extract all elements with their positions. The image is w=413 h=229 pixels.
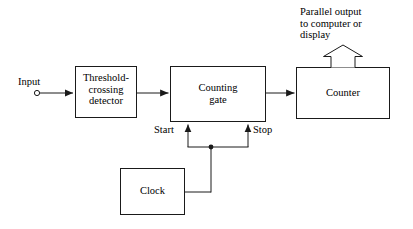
threshold-detector-label: Threshold- crossing detector: [76, 72, 136, 107]
parallel-output-arrow-icon: [324, 45, 363, 68]
counter-label: Counter: [297, 87, 389, 99]
clock-label: Clock: [121, 185, 184, 197]
stop-label: Stop: [253, 124, 285, 136]
counting-gate-label: Counting gate: [171, 82, 265, 105]
start-label: Start: [154, 124, 186, 136]
input-label: Input: [18, 76, 58, 88]
bus-junction-dot: [209, 145, 214, 150]
diagram-canvas: Threshold- crossing detector Counting ga…: [0, 0, 413, 229]
input-terminal-icon: [34, 90, 39, 95]
parallel-output-label: Parallel output to computer or display: [300, 6, 405, 41]
